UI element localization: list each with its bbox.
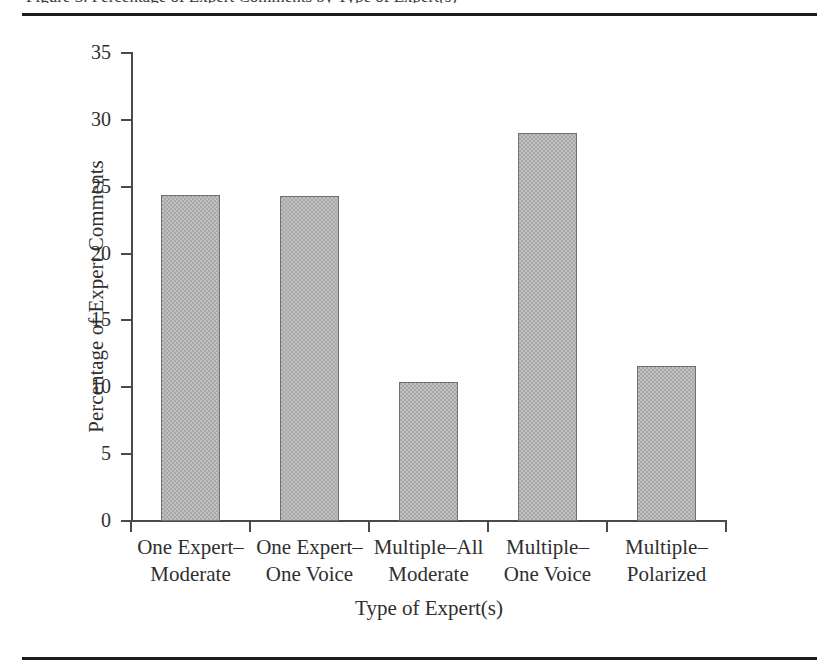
x-axis-tick: [249, 521, 251, 532]
y-axis-tick: [121, 119, 131, 121]
y-axis-tick: [121, 386, 131, 388]
x-axis-tick-label-line: Polarized: [607, 561, 726, 588]
x-axis-tick-label-line: One Voice: [488, 561, 607, 588]
x-axis-tick-label-line: Moderate: [369, 561, 488, 588]
x-axis-title: Type of Expert(s): [131, 596, 727, 621]
y-axis-tick-label: 35: [47, 42, 111, 62]
x-axis-tick-label-line: One Expert–: [131, 534, 250, 561]
bar: [518, 133, 577, 521]
y-axis-tick: [121, 453, 131, 455]
x-axis-tick-label-line: Multiple–All: [369, 534, 488, 561]
y-axis-tick-label: 0: [47, 510, 111, 530]
x-axis-tick-label: Multiple–AllModerate: [369, 534, 488, 588]
x-axis-tick: [368, 521, 370, 532]
bar: [161, 195, 220, 521]
bar: [637, 366, 696, 521]
x-axis-tick-label: Multiple–One Voice: [488, 534, 607, 588]
x-axis-tick: [130, 521, 132, 532]
x-axis-tick-label-line: Multiple–: [488, 534, 607, 561]
x-axis-tick-label: Multiple–Polarized: [607, 534, 726, 588]
figure-container: Figure 3. Percentage of Expert Comments …: [0, 0, 839, 672]
bar-chart: 05101520253035 One Expert–ModerateOne Ex…: [0, 0, 839, 672]
y-axis-title: Percentage of Expert Comments: [84, 137, 109, 457]
y-axis-tick: [121, 253, 131, 255]
bar: [280, 196, 339, 521]
x-axis-tick-label-line: Moderate: [131, 561, 250, 588]
x-axis-tick-label: One Expert–One Voice: [250, 534, 369, 588]
y-axis-tick: [121, 319, 131, 321]
x-axis-tick-label-line: Multiple–: [607, 534, 726, 561]
x-axis-tick: [487, 521, 489, 532]
x-axis-tick: [725, 521, 727, 532]
bar: [399, 382, 458, 521]
y-axis-tick: [121, 186, 131, 188]
y-axis-tick-label: 30: [47, 109, 111, 129]
y-axis-line: [131, 52, 133, 522]
x-axis-tick-label-line: One Expert–: [250, 534, 369, 561]
x-axis-tick-label-line: One Voice: [250, 561, 369, 588]
x-axis-tick: [606, 521, 608, 532]
y-axis-tick: [121, 52, 131, 54]
x-axis-tick-label: One Expert–Moderate: [131, 534, 250, 588]
